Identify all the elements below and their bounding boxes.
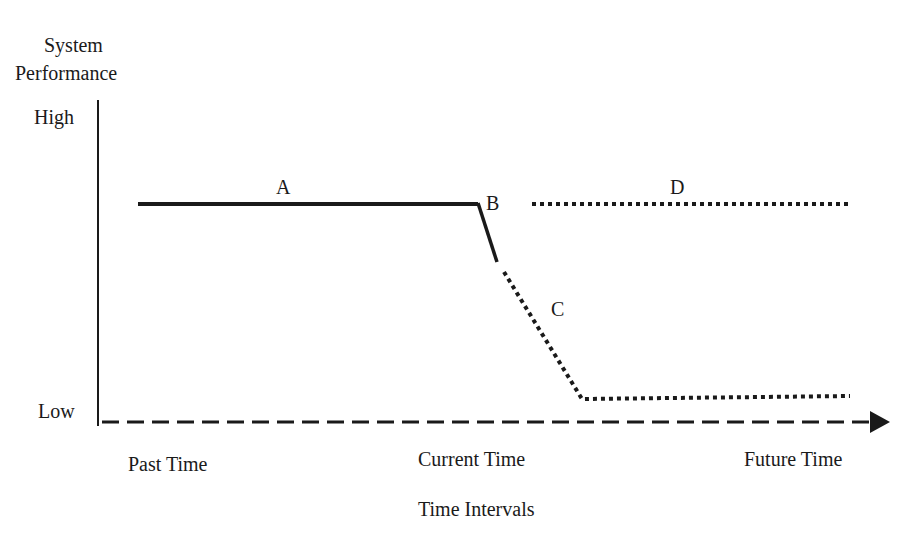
label-c: C (551, 298, 564, 320)
label-b: B (486, 192, 499, 214)
y-tick-low: Low (38, 400, 75, 422)
label-d: D (670, 176, 684, 198)
x-axis-title: Time Intervals (418, 498, 534, 520)
x-axis-arrowhead (870, 411, 890, 433)
label-a: A (276, 176, 290, 198)
x-tick-current: Current Time (418, 448, 525, 470)
y-tick-high: High (34, 106, 74, 128)
y-axis-title-line1: System (44, 34, 103, 56)
x-tick-past: Past Time (128, 453, 207, 475)
x-tick-future: Future Time (744, 448, 842, 470)
segment-c (504, 272, 850, 399)
y-axis-title-line2: Performance (15, 62, 117, 84)
